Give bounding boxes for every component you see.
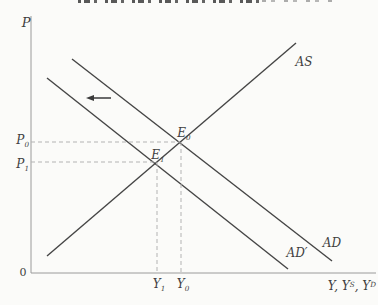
x-axis-label: Y, YS, YD: [328, 280, 376, 292]
p1-base: P: [16, 157, 24, 171]
y-axis-label: P: [22, 16, 31, 29]
y0-sub: 0: [185, 284, 190, 293]
y1-base: Y: [153, 277, 161, 291]
p0-base: P: [16, 133, 24, 147]
e0-sub: 0: [186, 133, 191, 142]
e1-sub: 1: [160, 155, 165, 164]
p1-price-label: P1: [16, 158, 29, 170]
as-curve-label: AS: [296, 56, 313, 68]
e1-base: E: [151, 148, 160, 162]
ad-as-diagram-figure: P 0 P0 P1 E0 E1 AS AD AD′ Y1 Y0 Y, YS, Y…: [0, 0, 378, 305]
ad-shift-arrow-head: [86, 95, 94, 101]
ad-prime-curve: [47, 78, 288, 269]
diagram-canvas: [0, 0, 378, 305]
x-axis-part1: Y, Y: [328, 279, 350, 293]
y1-sub: 1: [161, 284, 166, 293]
x-axis-sup2: D: [370, 280, 376, 289]
e0-equilibrium-label: E0: [177, 127, 190, 139]
ad-curve-label: AD: [323, 237, 341, 249]
p0-sub: 0: [24, 140, 29, 149]
y1-output-label: Y1: [153, 278, 166, 290]
p0-price-label: P0: [16, 134, 29, 146]
origin-label: 0: [20, 267, 27, 278]
y0-base: Y: [177, 277, 185, 291]
p1-sub: 1: [24, 164, 29, 173]
e0-base: E: [177, 126, 186, 140]
as-curve: [47, 43, 296, 256]
x-axis-part2: , Y: [355, 279, 371, 293]
y0-output-label: Y0: [177, 278, 190, 290]
e1-equilibrium-label: E1: [151, 149, 164, 161]
ad-curve: [72, 59, 332, 261]
ad-prime-curve-label: AD′: [286, 247, 307, 259]
